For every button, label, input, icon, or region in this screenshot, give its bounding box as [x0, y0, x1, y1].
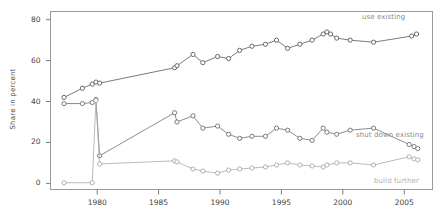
- data-point: [328, 32, 332, 36]
- data-point: [215, 54, 219, 58]
- data-point: [263, 42, 267, 46]
- data-point: [175, 64, 179, 68]
- data-point: [62, 101, 66, 105]
- chart-container: Share in percent 02040608019801985199019…: [0, 0, 446, 223]
- data-point: [263, 165, 267, 169]
- chart-plot-area: [0, 0, 446, 223]
- x-tick-label: 1985: [139, 198, 179, 207]
- data-point: [98, 162, 102, 166]
- data-point: [407, 155, 411, 159]
- plot-frame: [51, 12, 433, 190]
- data-point: [227, 168, 231, 172]
- y-tick-label: 80: [19, 15, 41, 24]
- series-line: [64, 32, 417, 97]
- data-point: [285, 161, 289, 165]
- data-point: [201, 126, 205, 130]
- data-point: [175, 160, 179, 164]
- data-point: [410, 34, 414, 38]
- data-point: [348, 128, 352, 132]
- data-point: [371, 126, 375, 130]
- data-point: [321, 126, 325, 130]
- data-point: [310, 164, 314, 168]
- y-tick-label: 60: [19, 56, 41, 65]
- series-label-shut-down-existing: shut down existing: [356, 131, 424, 139]
- data-point: [201, 169, 205, 173]
- x-tick-label: 2005: [384, 198, 424, 207]
- data-point: [238, 167, 242, 171]
- data-point: [62, 181, 66, 185]
- data-point: [348, 161, 352, 165]
- y-tick-label: 0: [19, 178, 41, 187]
- data-point: [335, 161, 339, 165]
- data-point: [310, 138, 314, 142]
- data-point: [335, 132, 339, 136]
- data-point: [94, 98, 98, 102]
- data-point: [215, 171, 219, 175]
- data-point: [285, 128, 289, 132]
- data-point: [62, 95, 66, 99]
- data-point: [298, 136, 302, 140]
- y-tick-label: 40: [19, 97, 41, 106]
- data-point: [215, 124, 219, 128]
- data-point: [274, 163, 278, 167]
- data-point: [227, 56, 231, 60]
- data-point: [325, 130, 329, 134]
- data-point: [80, 86, 84, 90]
- data-point: [238, 136, 242, 140]
- x-tick-label: 1980: [77, 198, 117, 207]
- data-point: [414, 32, 418, 36]
- series-label-build-further: build further: [374, 177, 419, 185]
- x-tick-label: 1990: [200, 198, 240, 207]
- data-point: [201, 61, 205, 65]
- series-line: [64, 99, 418, 155]
- data-point: [90, 181, 94, 185]
- data-point: [407, 142, 411, 146]
- data-point: [335, 36, 339, 40]
- data-point: [227, 132, 231, 136]
- data-point: [371, 163, 375, 167]
- data-point: [175, 120, 179, 124]
- data-point: [98, 81, 102, 85]
- data-point: [191, 167, 195, 171]
- data-point: [80, 101, 84, 105]
- data-point: [250, 166, 254, 170]
- data-point: [416, 158, 420, 162]
- data-point: [348, 38, 352, 42]
- data-point: [371, 40, 375, 44]
- data-point: [325, 163, 329, 167]
- data-point: [298, 42, 302, 46]
- data-point: [250, 134, 254, 138]
- data-point: [238, 48, 242, 52]
- y-tick-label: 20: [19, 137, 41, 146]
- data-point: [191, 52, 195, 56]
- data-point: [285, 46, 289, 50]
- data-point: [263, 134, 267, 138]
- data-point: [191, 114, 195, 118]
- x-tick-label: 2000: [323, 198, 363, 207]
- data-point: [274, 126, 278, 130]
- data-point: [416, 146, 420, 150]
- series-label-use-existing: use existing: [362, 13, 405, 21]
- data-point: [310, 38, 314, 42]
- data-point: [250, 44, 254, 48]
- data-point: [274, 38, 278, 42]
- x-tick-label: 1995: [261, 198, 301, 207]
- data-point: [298, 163, 302, 167]
- data-point: [172, 111, 176, 115]
